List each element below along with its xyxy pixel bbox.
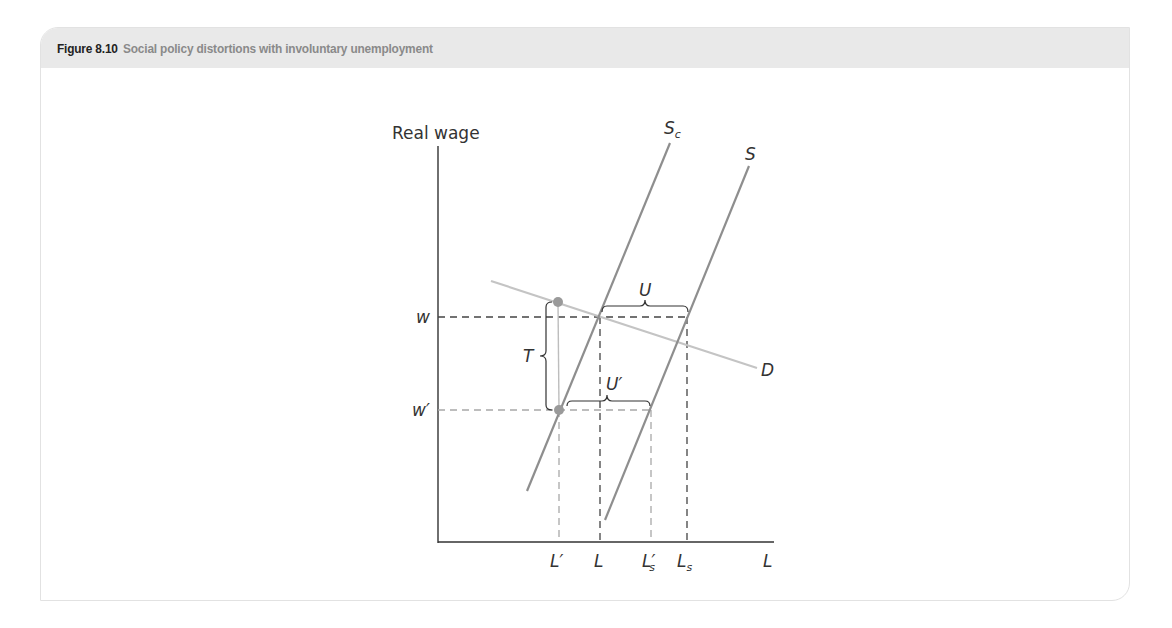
tax-wedge-line <box>558 302 559 410</box>
labour-market-diagram: Real wage Sc S D U U′ T w w′ L′ L L′s Ls… <box>0 0 1172 628</box>
Ls-tick: Ls <box>677 551 692 574</box>
y-axis-title: Real wage <box>392 123 480 143</box>
L-tick: L <box>594 551 603 571</box>
w-prime-label: w′ <box>412 400 430 420</box>
upper-point <box>553 297 563 307</box>
T-label: T <box>523 346 535 366</box>
Sc-label: Sc <box>664 118 681 141</box>
x-axis-title: L <box>763 551 772 571</box>
lower-point <box>554 405 564 415</box>
U-prime-label: U′ <box>606 374 622 394</box>
T-brace <box>540 302 552 410</box>
D-label: D <box>761 360 774 380</box>
L-prime-tick: L′ <box>550 551 563 571</box>
S-label: S <box>745 144 756 164</box>
Ls-prime-tick: L′s <box>642 551 655 574</box>
U-prime-brace <box>567 395 650 406</box>
supply-curve <box>605 166 749 520</box>
w-label: w <box>416 307 430 327</box>
U-brace <box>602 300 688 312</box>
U-label: U <box>639 280 652 300</box>
